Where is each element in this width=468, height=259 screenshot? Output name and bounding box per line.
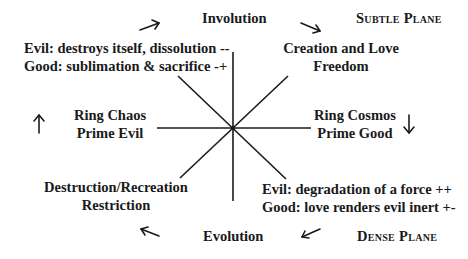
arrow-down-icon [404, 115, 414, 133]
good-sublimation-line: Good: sublimation & sacrifice -+ [24, 58, 230, 76]
freedom-line: Freedom [282, 58, 400, 76]
evolution-label: Evolution [203, 228, 263, 246]
arrow-up-icon [34, 115, 44, 133]
destruction-recreation-line: Destruction/Recreation [42, 179, 190, 197]
involution-label: Involution [202, 10, 266, 28]
creation-and-love-line: Creation and Love [282, 40, 400, 58]
right-text: Ring Cosmos Prime Good [312, 107, 398, 142]
bottom-left-text: Destruction/Recreation Restriction [42, 179, 190, 214]
center-point [231, 126, 235, 130]
ring-chaos-line: Ring Chaos [72, 107, 148, 125]
arrow-up-right-icon [140, 20, 159, 30]
top-right-text: Creation and Love Freedom [282, 40, 400, 75]
arrow-down-right-icon [301, 23, 320, 33]
arrow-up-left-icon [141, 227, 159, 236]
evil-degradation-line: Evil: degradation of a force ++ [262, 181, 444, 199]
arrow-down-left-icon [302, 229, 320, 238]
restriction-line: Restriction [42, 197, 190, 215]
prime-good-line: Prime Good [312, 125, 398, 143]
evil-dissolution-line: Evil: destroys itself, dissolution -- [24, 40, 230, 58]
good-love-renders-line: Good: love renders evil inert +- [262, 199, 444, 217]
ring-cosmos-line: Ring Cosmos [312, 107, 398, 125]
subtle-plane-label: Subtle Plane [356, 10, 442, 28]
top-left-text: Evil: destroys itself, dissolution -- Go… [24, 40, 230, 75]
left-text: Ring Chaos Prime Evil [72, 107, 148, 142]
bottom-right-text: Evil: degradation of a force ++ Good: lo… [262, 181, 444, 216]
dense-plane-label: Dense Plane [357, 228, 437, 246]
prime-evil-line: Prime Evil [72, 125, 148, 143]
